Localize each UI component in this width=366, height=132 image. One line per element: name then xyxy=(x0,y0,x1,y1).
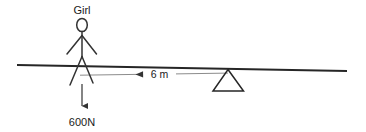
triangle-fulcrum-icon xyxy=(213,70,244,92)
dimension-line-right-segment xyxy=(176,73,228,74)
figure-head xyxy=(77,18,88,31)
figure-arm-left xyxy=(67,36,82,55)
plank-line xyxy=(17,65,347,71)
force-label: 600N xyxy=(69,116,95,128)
figure-leg-left xyxy=(70,57,82,86)
distance-label: 6 m xyxy=(151,68,169,80)
person-label: Girl xyxy=(73,4,90,16)
physics-lever-diagram: Girl 600N 6 m xyxy=(0,0,366,132)
figure-leg-right xyxy=(82,57,93,84)
figure-arm-right xyxy=(82,36,97,55)
diagram-canvas: Girl 600N 6 m xyxy=(0,0,366,132)
